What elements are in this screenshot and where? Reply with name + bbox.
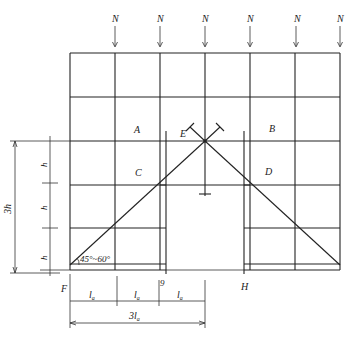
load-arrow-3: N — [201, 13, 210, 47]
right-diagonal-brace — [205, 141, 340, 265]
horizontal-dimension: la la la 3la — [70, 274, 205, 328]
dimension-h-2: h — [39, 205, 49, 210]
load-arrows: N N N N N N — [111, 13, 345, 47]
dimension-la-2: la — [134, 289, 140, 301]
region-label-b: B — [269, 123, 275, 134]
point-label-f: F — [60, 283, 68, 294]
angle-label: 45°~60° — [80, 254, 110, 264]
dimension-3la: 3la — [128, 310, 140, 322]
vertical-dimension: 3h h h h — [2, 136, 70, 276]
region-label-d: D — [264, 166, 273, 177]
point-label-g: 9 — [160, 278, 165, 288]
left-diagonal-brace — [70, 141, 205, 265]
load-arrow-2: N — [156, 13, 165, 47]
dimension-la-1: la — [89, 289, 95, 301]
region-label-c: C — [135, 167, 142, 178]
scaffold-diagram: N N N N N N — [0, 0, 360, 343]
load-arrow-1: N — [111, 13, 120, 47]
dimension-h-3: h — [39, 255, 49, 260]
load-label: N — [201, 13, 210, 24]
load-arrow-5: N — [293, 13, 302, 47]
load-label: N — [293, 13, 302, 24]
dimension-3h: 3h — [2, 204, 13, 215]
scaffold-grid — [40, 53, 340, 274]
dimension-la-3: la — [177, 289, 183, 301]
load-label: N — [156, 13, 165, 24]
load-label: N — [336, 13, 345, 24]
point-label-e: E — [179, 128, 186, 139]
diagonal-braces — [70, 123, 340, 265]
load-label: N — [111, 13, 120, 24]
dimension-h-1: h — [39, 162, 49, 167]
load-label: N — [246, 13, 255, 24]
load-arrow-4: N — [246, 13, 255, 47]
region-label-a: A — [133, 124, 141, 135]
point-label-h: H — [240, 281, 249, 292]
load-arrow-6: N — [336, 13, 345, 47]
